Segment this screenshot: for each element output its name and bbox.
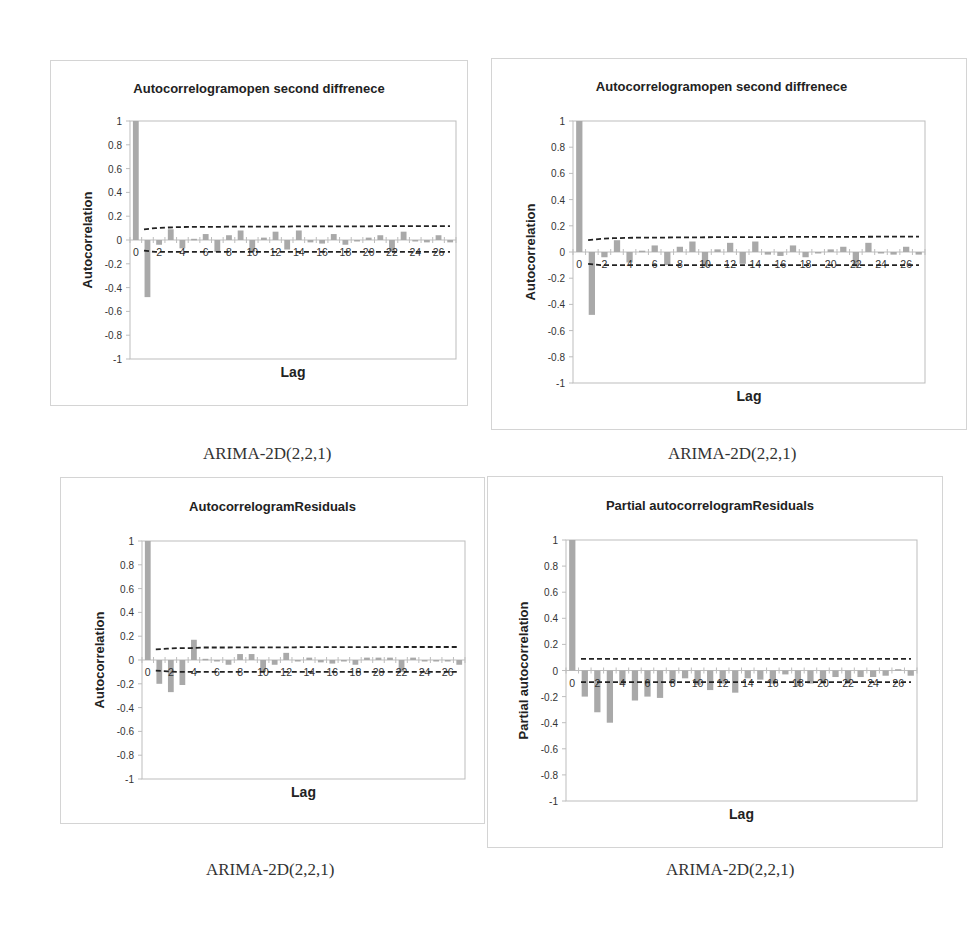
chart-title: Partial autocorrelogramResiduals <box>478 498 942 513</box>
chart-panel-3: AutocorrelogramResiduals <box>60 477 485 824</box>
chart-caption-1: ARIMA-2D(2,2,1) <box>203 444 331 464</box>
chart-panel-4: Partial autocorrelogramResiduals <box>487 476 943 848</box>
chart-panel-2: Autocorrelogramopen second diffrenece <box>491 58 967 430</box>
chart-caption-3: ARIMA-2D(2,2,1) <box>206 860 334 880</box>
chart-panel-1: Autocorrelogramopen second diffrenece <box>50 60 468 406</box>
chart-caption-2: ARIMA-2D(2,2,1) <box>668 444 796 464</box>
chart-title: Autocorrelogramopen second diffrenece <box>477 79 966 94</box>
chart-caption-4: ARIMA-2D(2,2,1) <box>666 860 794 880</box>
chart-title: AutocorrelogramResiduals <box>61 499 484 514</box>
chart-title: Autocorrelogramopen second diffrenece <box>51 81 467 96</box>
